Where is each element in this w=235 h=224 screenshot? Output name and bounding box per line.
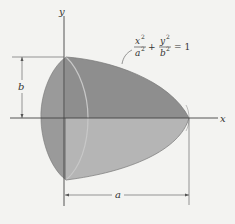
b-dimension-label: b bbox=[18, 81, 24, 92]
svg-text:+: + bbox=[148, 42, 156, 52]
a-arrow-left-icon bbox=[65, 194, 69, 197]
svg-text:2: 2 bbox=[141, 45, 145, 52]
svg-text:2: 2 bbox=[141, 33, 145, 40]
svg-text:= 1: = 1 bbox=[174, 42, 190, 52]
solid-upper-surface bbox=[66, 57, 189, 118]
ellipsoid-diagram: x y b a x 2 a 2 + y 2 b 2 = 1 bbox=[0, 0, 235, 224]
svg-text:y: y bbox=[159, 36, 166, 46]
svg-text:2: 2 bbox=[166, 33, 170, 40]
svg-text:x: x bbox=[135, 36, 140, 46]
svg-text:2: 2 bbox=[166, 45, 170, 52]
equation-leader-line bbox=[122, 50, 132, 64]
ellipse-equation: x 2 a 2 + y 2 b 2 = 1 bbox=[134, 33, 190, 58]
a-arrow-right-icon bbox=[185, 194, 189, 197]
b-arrow-top-icon bbox=[21, 57, 24, 61]
svg-text:a: a bbox=[135, 48, 140, 58]
a-dimension-label: a bbox=[115, 189, 121, 200]
x-axis-label: x bbox=[220, 113, 226, 124]
solid-back-face bbox=[41, 57, 66, 180]
b-arrow-bottom-icon bbox=[21, 114, 24, 118]
y-axis-label: y bbox=[58, 6, 65, 17]
